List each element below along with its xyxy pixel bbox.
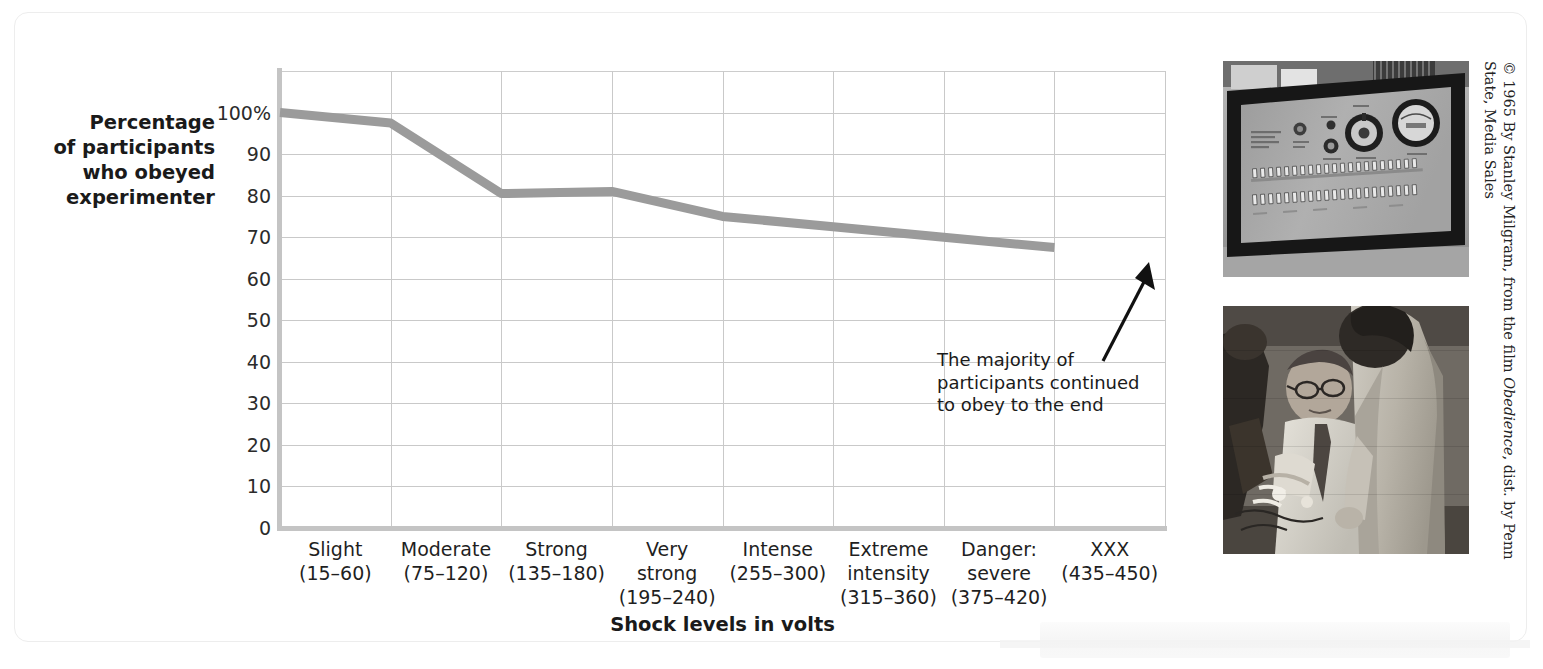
gridline-x-8	[1165, 71, 1166, 528]
y-axis-tick-10: 10	[193, 475, 271, 497]
figure-card: Percentage of participants who obeyed ex…	[14, 12, 1527, 642]
y-axis-tick-70: 70	[193, 226, 271, 248]
y-axis-tick-60: 60	[193, 268, 271, 290]
plot-area	[280, 71, 1165, 528]
y-axis-tick-80: 80	[193, 185, 271, 207]
y-axis-tick-50: 50	[193, 309, 271, 331]
x-axis-tick-labels: Slight(15–60)Moderate(75–120)Strong(135–…	[280, 537, 1165, 617]
photo-credit: © 1965 By Stanley Milgram, from the film…	[1478, 61, 1518, 561]
y-axis-title-line-3: who obeyed	[43, 160, 215, 185]
obedience-line-series	[280, 71, 1165, 528]
shock-generator-photo	[1223, 61, 1469, 277]
x-axis-tick-7: XXX(435–450)	[1024, 537, 1195, 585]
y-axis-title-line-2: of participants	[43, 135, 215, 160]
credit-film-title: Obedience	[1501, 377, 1517, 455]
scan-artifact-edge	[1000, 640, 1530, 648]
credit-prefix: © 1965 By Stanley Milgram, from the film	[1501, 61, 1517, 377]
photo-credit-text: © 1965 By Stanley Milgram, from the film…	[1480, 61, 1518, 561]
y-axis-tick-30: 30	[193, 392, 271, 414]
x-axis-tick-6-line-3: (375–420)	[914, 585, 1085, 609]
x-axis-tick-7-line-1: XXX	[1024, 537, 1195, 561]
y-axis-title-line-4: experimenter	[43, 185, 215, 210]
x-axis-tick-7-line-2: (435–450)	[1024, 561, 1195, 585]
y-axis-title-line-1: Percentage	[43, 110, 215, 135]
y-axis-tick-90: 90	[193, 143, 271, 165]
y-axis-title: Percentage of participants who obeyed ex…	[43, 110, 215, 210]
y-axis-tick-100: 100%	[193, 102, 271, 124]
chart-annotation-line-2: participants continued	[937, 372, 1147, 395]
x-axis-tick-3-line-3: (195–240)	[582, 585, 753, 609]
annotation-arrow-icon	[1095, 256, 1165, 366]
chart-annotation-line-3: to obey to the end	[937, 394, 1147, 417]
y-axis-tick-40: 40	[193, 351, 271, 373]
learner-electrodes-photo	[1223, 306, 1469, 554]
y-axis-tick-0: 0	[193, 517, 271, 539]
x-axis-title: Shock levels in volts	[280, 613, 1165, 636]
y-axis-tick-20: 20	[193, 434, 271, 456]
